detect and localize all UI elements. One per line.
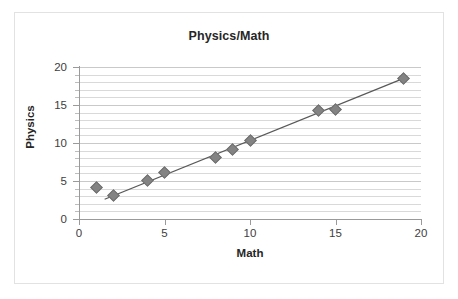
y-tick-label: 5	[21, 175, 67, 187]
y-tick-minor	[75, 158, 79, 159]
y-tick-minor	[75, 82, 79, 83]
y-tick-label: 10	[21, 137, 67, 149]
y-tick-minor	[75, 113, 79, 114]
x-tick-major	[336, 219, 337, 225]
x-tick-major	[250, 219, 251, 225]
x-tick-label: 10	[230, 227, 270, 239]
y-tick-minor	[75, 204, 79, 205]
y-tick-label: 15	[21, 99, 67, 111]
y-tick-minor	[75, 90, 79, 91]
y-tick-minor	[75, 166, 79, 167]
x-tick-major	[421, 219, 422, 225]
y-tick-minor	[75, 173, 79, 174]
y-tick-minor	[75, 189, 79, 190]
chart-title: Physics/Math	[15, 29, 443, 43]
y-tick-minor	[75, 97, 79, 98]
x-tick-label: 0	[59, 227, 99, 239]
y-tick-major	[73, 105, 79, 106]
y-tick-major	[73, 67, 79, 68]
y-tick-minor	[75, 196, 79, 197]
y-tick-minor	[75, 128, 79, 129]
y-tick-minor	[75, 75, 79, 76]
y-tick-minor	[75, 211, 79, 212]
y-tick-label: 0	[21, 213, 67, 225]
chart-container: Physics/Math Physics 05101520 05101520 M…	[14, 12, 444, 284]
x-tick-major	[165, 219, 166, 225]
x-tick-label: 20	[401, 227, 441, 239]
x-tick-major	[79, 219, 80, 225]
x-tick-label: 5	[145, 227, 185, 239]
plot-area	[79, 67, 421, 219]
y-axis-title: Physics	[24, 82, 36, 172]
y-tick-minor	[75, 135, 79, 136]
x-tick-label: 15	[316, 227, 356, 239]
y-tick-major	[73, 181, 79, 182]
x-axis-title: Math	[79, 247, 421, 259]
y-tick-label: 20	[21, 61, 67, 73]
y-axis-line	[79, 66, 80, 220]
y-tick-minor	[75, 120, 79, 121]
y-tick-major	[73, 143, 79, 144]
y-tick-minor	[75, 151, 79, 152]
